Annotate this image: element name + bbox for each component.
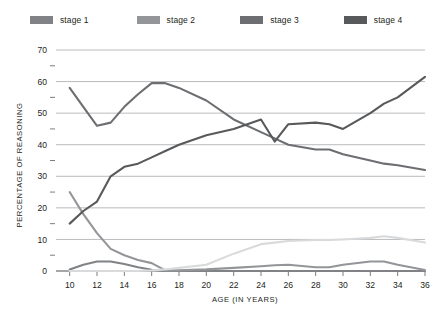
y-tick-label: 10 <box>37 235 47 245</box>
y-tick-label: 70 <box>37 45 47 55</box>
x-tick-label: 28 <box>311 280 321 290</box>
y-tick-label: 20 <box>37 203 47 213</box>
x-tick-label: 26 <box>284 280 294 290</box>
x-tick-label: 10 <box>65 280 75 290</box>
y-axis-title: PERCENTAGE OF REASONING <box>15 103 24 228</box>
y-tick-label: 30 <box>37 171 47 181</box>
y-tick-label: 60 <box>37 77 47 87</box>
x-tick-label: 34 <box>393 280 403 290</box>
y-tick-label: 0 <box>42 266 47 276</box>
series-line-stage-2 <box>70 192 425 270</box>
x-tick-label: 30 <box>338 280 348 290</box>
x-axis-tick-labels: 1012141618202224262830323436 <box>65 280 430 290</box>
x-axis-title: AGE (IN YEARS) <box>212 295 278 304</box>
reasoning-stages-line-chart: stage 1 stage 2 stage 3 stage 4 stage 5 … <box>0 0 442 310</box>
y-tick-label: 40 <box>37 140 47 150</box>
x-tick-label: 36 <box>420 280 430 290</box>
plot-area-container: 010203040506070 101214161820222426283032… <box>0 0 442 310</box>
x-tick-label: 14 <box>120 280 130 290</box>
x-tick-label: 32 <box>366 280 376 290</box>
x-tick-label: 24 <box>256 280 266 290</box>
series-line-stage-4 <box>70 77 425 224</box>
x-tick-label: 22 <box>229 280 239 290</box>
y-axis-tick-labels: 010203040506070 <box>37 45 47 276</box>
series-line-stage-3 <box>70 83 425 170</box>
y-axis-minor-ticks <box>50 66 55 255</box>
x-tick-label: 18 <box>174 280 184 290</box>
x-tick-label: 16 <box>147 280 157 290</box>
y-tick-label: 50 <box>37 108 47 118</box>
data-series-lines <box>70 77 425 271</box>
x-tick-label: 12 <box>92 280 102 290</box>
x-tick-label: 20 <box>202 280 212 290</box>
